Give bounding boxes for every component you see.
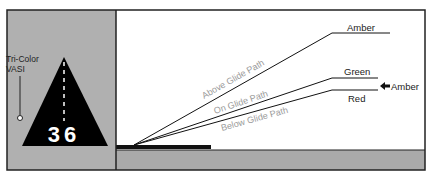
vasi-diagram: 36 Tri-Color VASI Above Glide Path On Gl…	[0, 0, 431, 176]
vasi-light-icon	[18, 116, 23, 121]
runway-number: 36	[48, 122, 80, 147]
red-label: Red	[348, 93, 365, 104]
vasi-label-line1: Tri-Color	[6, 54, 39, 64]
green-label: Green	[344, 66, 370, 77]
vasi-label-line2: VASI	[6, 64, 25, 74]
amber-label: Amber	[347, 22, 375, 33]
runway-side	[116, 145, 211, 149]
ground	[116, 150, 425, 170]
transition-amber-label: Amber	[391, 81, 419, 92]
